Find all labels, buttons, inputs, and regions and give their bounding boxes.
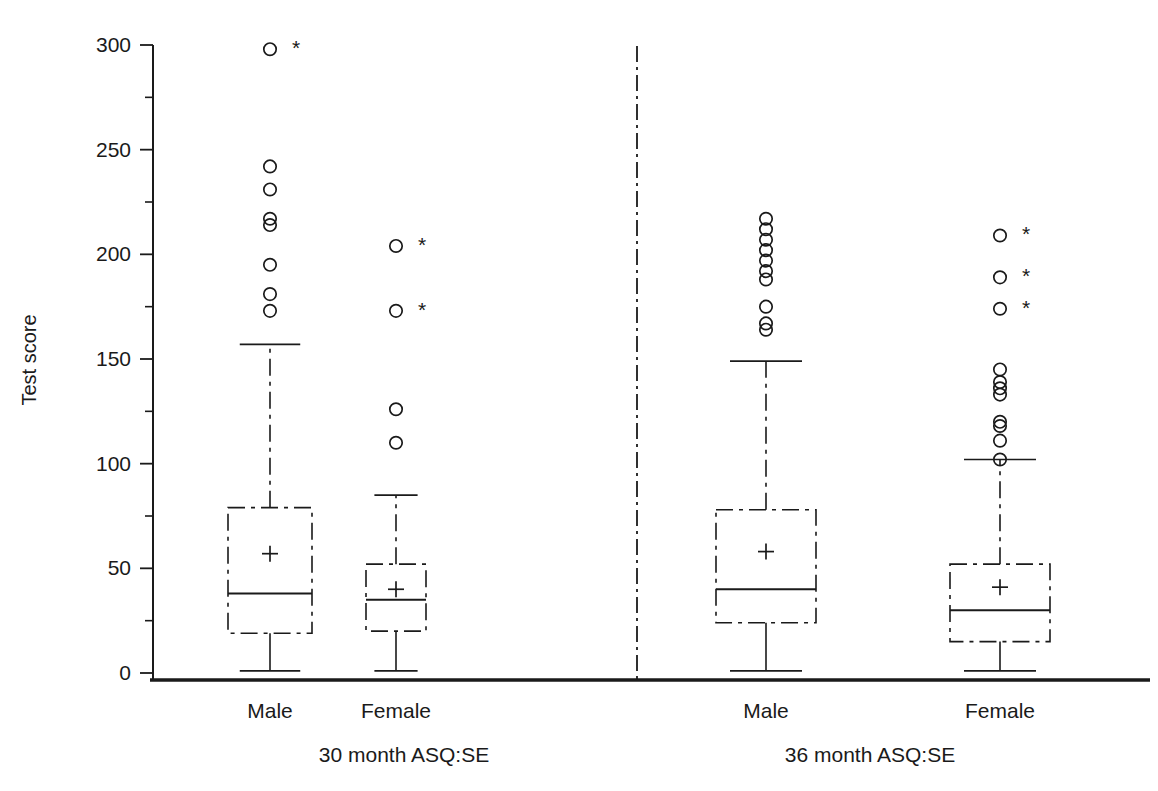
extreme-outlier-asterisk: * <box>1022 264 1030 287</box>
group-label-text: Male <box>743 699 789 722</box>
figure-background <box>0 0 1158 791</box>
extreme-outlier-asterisk: * <box>1022 222 1030 245</box>
y-tick-label: 150 <box>96 347 131 370</box>
group-label-text: Male <box>247 699 293 722</box>
extreme-outlier-asterisk: * <box>292 36 300 59</box>
y-tick-label: 50 <box>108 556 131 579</box>
y-axis-title-text: Test score <box>18 314 40 405</box>
y-tick-label: 0 <box>119 661 131 684</box>
group-label-text: Female <box>965 699 1035 722</box>
boxplot-canvas: 050100150200250300 Test score ****** Mal… <box>0 0 1158 791</box>
y-axis-title: Test score <box>18 314 40 405</box>
panel-label-text: 30 month ASQ:SE <box>319 743 489 766</box>
extreme-outlier-asterisk: * <box>1022 296 1030 319</box>
extreme-outlier-asterisk: * <box>418 233 426 256</box>
y-tick-label: 300 <box>96 33 131 56</box>
y-tick-label: 200 <box>96 242 131 265</box>
extreme-outlier-asterisk: * <box>418 298 426 321</box>
panel-label-text: 36 month ASQ:SE <box>785 743 955 766</box>
y-tick-label: 100 <box>96 452 131 475</box>
boxplot-figure: 050100150200250300 Test score ****** Mal… <box>0 0 1158 791</box>
y-tick-label: 250 <box>96 138 131 161</box>
group-label-text: Female <box>361 699 431 722</box>
